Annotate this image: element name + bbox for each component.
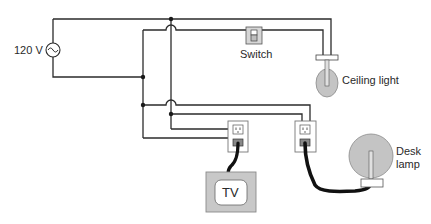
ceiling-light-label: Ceiling light	[342, 74, 399, 86]
wire-top	[53, 19, 331, 56]
ceiling-light-icon	[316, 55, 338, 97]
source-label: 120 V	[14, 44, 43, 56]
wires	[53, 19, 331, 138]
desk-lamp-label-line1: Desk	[396, 145, 422, 157]
wire-outlet-lamp-a	[143, 100, 310, 122]
wire-source-loop	[53, 19, 143, 77]
wire-switched	[143, 25, 323, 56]
tv-label: TV	[222, 185, 239, 200]
desk-lamp-icon	[349, 134, 393, 187]
desk-lamp-label-line2: lamp	[396, 158, 420, 170]
switch-icon[interactable]	[246, 27, 262, 44]
switch-label: Switch	[240, 48, 272, 60]
circuit-diagram: 120 V Switch Ceiling light TV	[0, 0, 431, 224]
ac-source-icon	[46, 43, 60, 57]
